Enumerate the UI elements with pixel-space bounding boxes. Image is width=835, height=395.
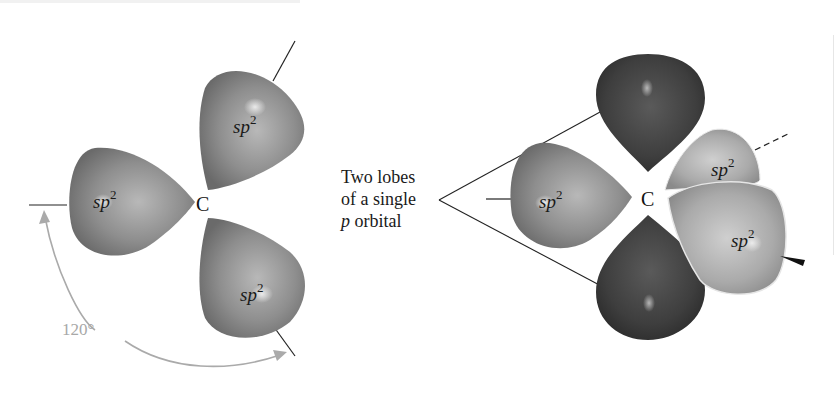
angle-arrowhead-upper [39, 210, 50, 224]
sp2-label-upper: sp2 [233, 115, 256, 136]
bond-axis-dashed [755, 133, 790, 150]
page-edge [833, 35, 834, 255]
angle-label: 120° [62, 320, 94, 340]
hybrid-orbital-diagram: sp2 sp2 sp2 C 120° Two lobes of a single… [0, 0, 835, 395]
sp2-label-right-lower: sp2 [731, 229, 754, 250]
p-orbital-caption: Two lobes of a single p orbital [341, 166, 416, 232]
caption-line-2: of a single [341, 188, 416, 210]
bond-axis-upper [273, 41, 295, 81]
sp2-label-lower: sp2 [240, 283, 263, 304]
sp2-label-right-left: sp2 [539, 190, 562, 211]
sp2-label-left: sp2 [93, 190, 116, 211]
caption-line-1: Two lobes [341, 166, 416, 188]
caption-line-3: p orbital [341, 210, 416, 232]
left-sp2-set [29, 41, 305, 366]
angle-arrowhead-lower [273, 350, 287, 361]
sp2-lobe-lower [199, 218, 305, 338]
sp2-lobe-left [69, 148, 195, 256]
orbital-drawing [0, 0, 835, 395]
sp2-lobe-right-left [510, 143, 632, 248]
sp2-label-right-upper: sp2 [711, 158, 734, 179]
carbon-atom-right: C [641, 188, 654, 211]
carbon-atom-left: C [196, 193, 209, 216]
